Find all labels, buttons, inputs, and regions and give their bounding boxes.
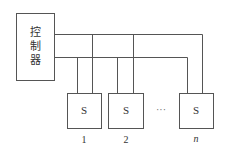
bottom-bus-line [55,58,188,94]
switch-index-1: 1 [67,134,101,145]
controller-char-2: 制 [30,40,41,54]
ellipsis: ··· [150,104,172,115]
switch-label-2: S [109,104,143,116]
controller-label: 控 制 器 [16,13,55,80]
switch-label-n: S [179,104,213,116]
switch-index-2: 2 [109,134,143,145]
switch-label-1: S [67,104,101,116]
controller-char-1: 控 [30,26,41,40]
switch-index-n: n [179,133,213,144]
controller-char-3: 器 [30,54,41,68]
